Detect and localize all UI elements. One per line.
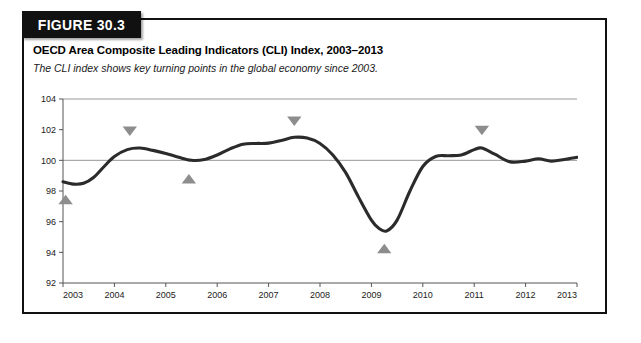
chart-plot-area: 92949698100102104 2003200420052006200720…	[33, 88, 578, 303]
x-tick-label-2008: 2008	[310, 290, 330, 300]
y-tick-label-94: 94	[46, 248, 56, 258]
y-tick-label-98: 98	[46, 186, 56, 196]
trough-marker-2005-icon	[182, 174, 196, 184]
figure-subtitle: The CLI index shows key turning points i…	[33, 62, 553, 74]
x-axis: 2003200420052006200720082009201020112012…	[63, 283, 577, 300]
y-gridlines	[63, 99, 577, 160]
y-tick-label-102: 102	[41, 125, 56, 135]
trough-marker-2009-icon	[377, 244, 391, 254]
x-tick-label-2005: 2005	[156, 290, 176, 300]
figure-root: FIGURE 30.3 OECD Area Composite Leading …	[0, 0, 641, 343]
trough-marker-2003-icon	[58, 195, 72, 205]
cli-line-chart: 92949698100102104 2003200420052006200720…	[33, 88, 578, 303]
series-group	[63, 137, 577, 231]
x-tick-label-2006: 2006	[207, 290, 227, 300]
x-tick-label-2013: 2013	[557, 290, 577, 300]
x-tick-label-2011: 2011	[465, 290, 484, 300]
y-tick-label-92: 92	[46, 278, 56, 288]
peak-marker-2011-icon	[475, 126, 489, 136]
y-tick-label-96: 96	[46, 217, 56, 227]
x-tick-label-2004: 2004	[104, 290, 124, 300]
y-axis: 92949698100102104	[41, 94, 63, 288]
x-tick-label-2003: 2003	[63, 290, 83, 300]
x-tick-label-2012: 2012	[516, 290, 536, 300]
series-line-0	[63, 137, 577, 231]
y-tick-label-100: 100	[41, 156, 56, 166]
y-tick-label-104: 104	[41, 94, 56, 104]
x-tick-label-2009: 2009	[361, 290, 381, 300]
figure-title: OECD Area Composite Leading Indicators (…	[33, 44, 553, 56]
peak-marker-2004-icon	[123, 126, 137, 135]
peak-marker-2007-icon	[287, 117, 301, 127]
turning-point-markers	[58, 117, 489, 254]
figure-number-banner: FIGURE 30.3	[22, 11, 141, 38]
x-tick-label-2010: 2010	[413, 290, 433, 300]
x-tick-label-2007: 2007	[259, 290, 279, 300]
